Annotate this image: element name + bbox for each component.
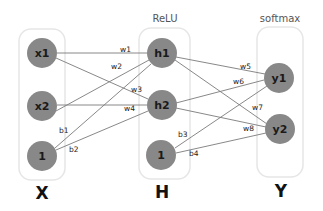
edge-label-w3: w3 — [131, 85, 142, 94]
node-label-x2: x2 — [35, 100, 50, 113]
layer-label-y: Y — [274, 181, 288, 201]
edge-label-w6: w6 — [233, 77, 244, 86]
node-label-y2: y2 — [273, 123, 288, 136]
node-label-bias-h: 1 — [157, 149, 165, 162]
edge-label-b1: b1 — [59, 126, 69, 135]
activation-label-y: softmax — [260, 13, 300, 24]
activation-label-h: ReLU — [152, 13, 177, 24]
edge-label-w2: w2 — [111, 62, 122, 71]
edge-label-w5: w5 — [240, 62, 251, 71]
edge-b1 — [55, 64, 151, 148]
edge-label-b3: b3 — [178, 130, 188, 139]
edge-label-w1: w1 — [120, 45, 131, 54]
layer-label-h: H — [155, 182, 169, 202]
edge-label-w8: w8 — [243, 124, 254, 133]
edge-label-w4: w4 — [124, 104, 135, 113]
node-label-h2: h2 — [154, 99, 170, 112]
edge-label-w7: w7 — [252, 103, 263, 112]
node-label-h1: h1 — [154, 47, 170, 60]
layer-box-y — [257, 27, 303, 177]
node-label-y1: y1 — [272, 72, 287, 85]
node-label-x1: x1 — [35, 47, 50, 60]
edge-label-b4: b4 — [189, 149, 199, 158]
layer-label-x: X — [35, 183, 48, 203]
edge-label-b2: b2 — [69, 145, 79, 154]
neural-network-diagram: w1 w2 w3 w4 b1 b2 w5 w6 w7 w8 b3 b4 x1 x… — [0, 0, 323, 211]
node-label-bias-x: 1 — [38, 150, 46, 163]
